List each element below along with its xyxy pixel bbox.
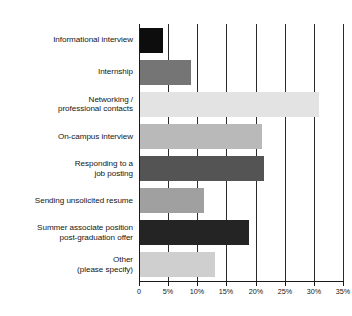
bar [140,92,319,117]
x-axis-tick [256,282,257,286]
gridline [343,24,344,281]
gridline [256,24,257,281]
x-axis-tick [343,282,344,286]
category-label-line: Other [0,255,133,265]
gridline [314,24,315,281]
x-axis-tick [139,282,140,286]
bar [140,156,264,181]
x-axis-tick [314,282,315,286]
x-axis-tick-label: 25% [278,288,292,296]
category-label-line: post-graduation offer [0,233,133,243]
category-axis-labels: Informational interviewInternshipNetwork… [0,24,133,281]
bar [140,188,204,213]
category-label: Internship [0,67,133,77]
bar [140,124,262,149]
category-label-line: Internship [0,67,133,77]
x-axis-tick-label: 15% [219,288,233,296]
x-axis-tick-label: 20% [249,288,263,296]
bar [140,252,215,277]
category-label: Responding to ajob posting [0,159,133,178]
category-label-line: professional contacts [0,104,133,114]
category-label: On-campus interview [0,132,133,142]
category-label-line: Responding to a [0,159,133,169]
x-axis-tick-label: 0 [137,288,141,296]
x-axis-tick-label: 35% [336,288,350,296]
category-label: Summer associate positionpost-graduation… [0,223,133,242]
category-label-line: job posting [0,169,133,179]
category-label-line: (please specify) [0,265,133,275]
category-label-line: Sending unsolicited resume [0,196,133,206]
bar [140,28,163,53]
category-label-line: Networking / [0,95,133,105]
x-axis-tick [197,282,198,286]
category-label: Networking /professional contacts [0,95,133,114]
bar-chart: Informational interviewInternshipNetwork… [0,0,352,316]
x-axis-tick [168,282,169,286]
category-label: Other(please specify) [0,255,133,274]
gridline [285,24,286,281]
x-axis-tick-label: 30% [307,288,321,296]
y-axis-line [139,24,140,281]
bar [140,60,191,85]
category-label-line: Summer associate position [0,223,133,233]
x-axis-tick-label: 5% [163,288,173,296]
category-label-line: Informational interview [0,35,133,45]
x-axis-tick [285,282,286,286]
x-axis-tick [226,282,227,286]
category-label: Sending unsolicited resume [0,196,133,206]
x-axis-tick-label: 10% [190,288,204,296]
category-label: Informational interview [0,35,133,45]
plot-area [139,24,343,281]
category-label-line: On-campus interview [0,132,133,142]
bar [140,220,249,245]
